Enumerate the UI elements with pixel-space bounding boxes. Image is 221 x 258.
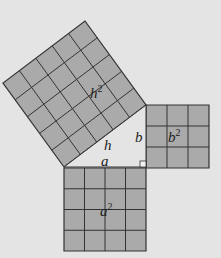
label-h: h xyxy=(104,137,112,153)
pythagoras-diagram: h2b2a2 hba xyxy=(0,0,221,258)
right-angle-marker xyxy=(140,161,146,167)
label-a: a xyxy=(101,153,109,169)
a-square: a2 xyxy=(64,168,146,251)
label-b: b xyxy=(135,129,143,145)
b-square: b2 xyxy=(146,105,209,168)
